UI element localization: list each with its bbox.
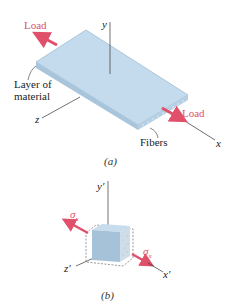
axis-z-label: z	[35, 113, 39, 125]
plate-figure-a	[28, 22, 215, 140]
axis-y-label: y	[102, 18, 107, 30]
load-label-right: Load	[182, 107, 205, 119]
axis-x-prime-label: x′	[163, 268, 170, 280]
layer-label-line1: Layer of	[14, 78, 52, 90]
fibers-label: Fibers	[140, 136, 168, 148]
caption-a: (a)	[104, 155, 117, 167]
axis-z-prime-label: z′	[64, 262, 71, 274]
caption-b: (b)	[101, 289, 114, 301]
stress-label-right: σx	[143, 245, 152, 262]
axis-y-prime-label: y′	[97, 180, 104, 192]
layer-label-line2: material	[14, 90, 50, 102]
load-label-left: Load	[24, 19, 47, 31]
diagram-canvas	[0, 0, 233, 305]
stress-label-left: σx	[70, 208, 79, 225]
axis-x-label: x	[216, 137, 221, 149]
